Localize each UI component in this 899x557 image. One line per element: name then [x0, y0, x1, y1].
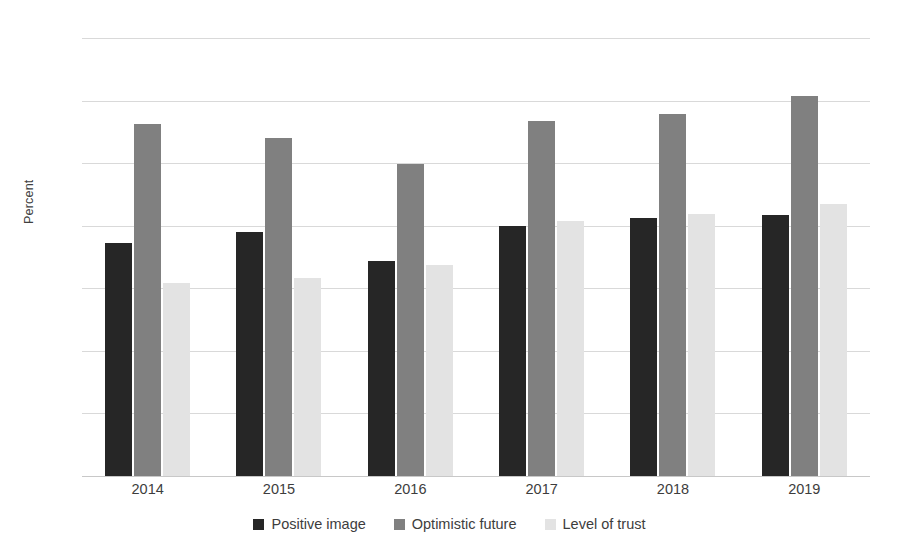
gridline-0	[82, 476, 870, 477]
bar-2014-positive-image	[105, 243, 132, 476]
bar-2019-optimistic-future	[791, 96, 818, 476]
legend-label: Optimistic future	[412, 516, 517, 532]
bar-2019-level-of-trust	[820, 204, 847, 476]
bar-2017-positive-image	[499, 226, 526, 476]
bar-2018-positive-image	[630, 218, 657, 476]
bar-2016-positive-image	[368, 261, 395, 476]
bar-2015-level-of-trust	[294, 278, 321, 476]
x-tick-label-2016: 2016	[345, 481, 476, 505]
x-tick-label-2019: 2019	[739, 481, 870, 505]
legend-swatch-icon	[253, 519, 264, 530]
legend-item-optimistic-future[interactable]: Optimistic future	[394, 516, 517, 532]
x-axis-labels: 201420152016201720182019	[82, 481, 870, 505]
legend-label: Level of trust	[563, 516, 646, 532]
legend-item-positive-image[interactable]: Positive image	[253, 516, 365, 532]
bar-chart: Percent 010203040506070 2014201520162017…	[0, 0, 899, 557]
legend-swatch-icon	[545, 519, 556, 530]
bar-2014-optimistic-future	[134, 124, 161, 476]
bar-2015-positive-image	[236, 232, 263, 476]
bar-group-2015	[213, 38, 344, 476]
bar-2014-level-of-trust	[163, 283, 190, 476]
bar-group-2017	[476, 38, 607, 476]
bar-2017-optimistic-future	[528, 121, 555, 476]
bar-2018-level-of-trust	[688, 214, 715, 476]
bar-2016-optimistic-future	[397, 164, 424, 476]
legend-swatch-icon	[394, 519, 405, 530]
x-tick-label-2014: 2014	[82, 481, 213, 505]
x-tick-label-2017: 2017	[476, 481, 607, 505]
x-tick-label-2015: 2015	[213, 481, 344, 505]
bar-groups	[82, 38, 870, 476]
bar-2019-positive-image	[762, 215, 789, 476]
bar-2015-optimistic-future	[265, 138, 292, 477]
bar-group-2014	[82, 38, 213, 476]
bar-2018-optimistic-future	[659, 114, 686, 476]
bar-group-2019	[739, 38, 870, 476]
legend-label: Positive image	[271, 516, 365, 532]
bar-2016-level-of-trust	[426, 265, 453, 476]
y-axis-title: Percent	[22, 104, 36, 224]
bar-2017-level-of-trust	[557, 221, 584, 476]
x-tick-label-2018: 2018	[607, 481, 738, 505]
plot-area: 010203040506070	[82, 38, 870, 476]
bar-group-2016	[345, 38, 476, 476]
legend: Positive imageOptimistic futureLevel of …	[0, 516, 899, 532]
bar-group-2018	[607, 38, 738, 476]
legend-item-level-of-trust[interactable]: Level of trust	[545, 516, 646, 532]
